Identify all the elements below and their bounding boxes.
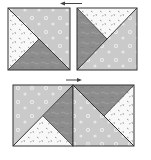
arrow-right-icon xyxy=(66,78,82,82)
quilt-diagram xyxy=(0,0,151,160)
block-2 xyxy=(77,8,137,70)
block-1 xyxy=(8,8,70,70)
block-3 xyxy=(13,85,73,146)
arrow-left-icon xyxy=(60,2,82,6)
block-4 xyxy=(73,85,134,146)
